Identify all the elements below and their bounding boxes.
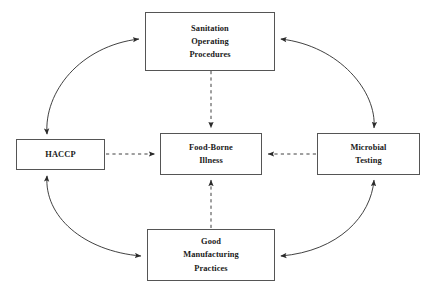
edge-sanitation-microbial	[281, 39, 374, 128]
node-label: Sanitation Operating Procedures	[186, 22, 233, 61]
node-label: HACCP	[42, 148, 78, 161]
node-label: Microbial Testing	[347, 141, 389, 167]
page-edge-artifact	[5, 288, 63, 293]
node-sanitation-operating-procedures[interactable]: Sanitation Operating Procedures	[145, 12, 275, 71]
edge-haccp-gmp	[47, 176, 141, 256]
node-label: Food-Borne Illness	[186, 141, 236, 167]
edge-gmp-microbial	[281, 180, 374, 256]
node-food-borne-illness[interactable]: Food-Borne Illness	[160, 133, 262, 175]
edge-haccp-sanitation	[47, 39, 139, 134]
node-good-manufacturing-practices[interactable]: Good Manufacturing Practices	[147, 229, 275, 281]
diagram-canvas: Sanitation Operating Procedures HACCP Fo…	[0, 0, 432, 298]
node-label: Good Manufacturing Practices	[180, 235, 242, 274]
node-haccp[interactable]: HACCP	[16, 139, 105, 170]
node-microbial-testing[interactable]: Microbial Testing	[317, 133, 420, 175]
